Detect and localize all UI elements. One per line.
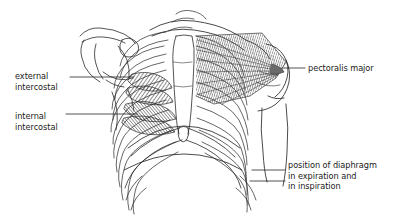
diaphragm-inspiration-dome — [124, 154, 242, 170]
anatomical-figure: external intercostal internal intercosta… — [0, 0, 400, 216]
label-diaphragm-line1: position of diaphragm — [288, 160, 377, 171]
leader-lines — [66, 68, 305, 181]
label-diaphragm: position of diaphragm in expiration and … — [288, 160, 377, 192]
label-external-intercostal-line1: external — [15, 71, 58, 82]
label-pectoralis-major: pectoralis major — [308, 63, 374, 74]
label-external-intercostal-line2: intercostal — [15, 82, 58, 93]
pectoralis-major-muscle — [190, 30, 290, 108]
internal-intercostal-muscle — [122, 101, 176, 134]
label-internal-intercostal-line1: internal — [15, 111, 58, 122]
label-diaphragm-line2: in expiration and — [288, 171, 377, 182]
label-internal-intercostal-line2: intercostal — [15, 122, 58, 133]
label-internal-intercostal: internal intercostal — [15, 111, 58, 132]
label-pectoralis-major-line1: pectoralis major — [308, 63, 374, 74]
label-external-intercostal: external intercostal — [15, 71, 58, 92]
label-diaphragm-line3: in inspiration — [288, 181, 377, 192]
